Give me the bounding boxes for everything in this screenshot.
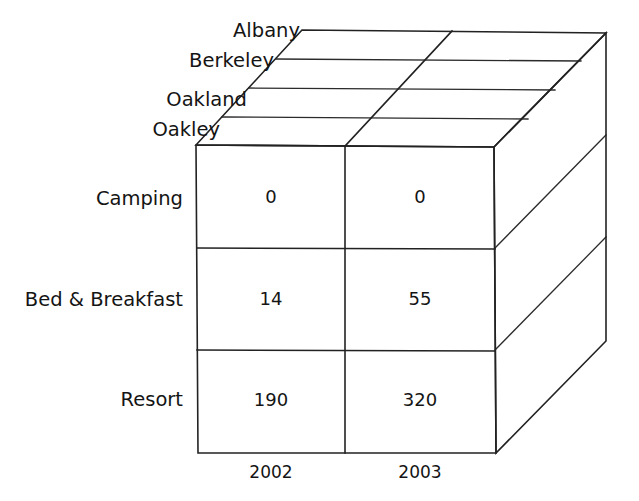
cell-bed-and-breakfast-2003: 55	[409, 288, 432, 309]
city-label-berkeley: Berkeley	[189, 49, 274, 72]
year-label-2002: 2002	[249, 462, 292, 482]
year-label-2003: 2003	[398, 462, 441, 482]
row-axis-labels: Camping Bed & Breakfast Resort	[25, 187, 184, 411]
cell-resort-2002: 190	[254, 389, 288, 410]
cell-bed-and-breakfast-2002: 14	[260, 288, 283, 309]
cube-diagram-svg: Albany Berkeley Oakland Oakley Camping B…	[0, 0, 639, 501]
cell-camping-2003: 0	[414, 186, 425, 207]
year-axis-labels: 2002 2003	[249, 462, 441, 482]
row-label-camping: Camping	[96, 187, 183, 210]
front-face-divider-bnb-resort	[197, 350, 495, 351]
cell-resort-2003: 320	[403, 389, 437, 410]
city-label-oakley: Oakley	[152, 118, 220, 141]
data-cube-figure: Albany Berkeley Oakland Oakley Camping B…	[0, 0, 639, 501]
cell-camping-2002: 0	[265, 186, 276, 207]
cube-front-face	[196, 145, 496, 453]
city-label-oakland: Oakland	[166, 88, 247, 111]
row-label-resort: Resort	[121, 388, 184, 411]
front-face-divider-camping-bnb	[197, 248, 495, 249]
city-label-albany: Albany	[233, 19, 300, 42]
row-label-bed-and-breakfast: Bed & Breakfast	[25, 288, 184, 311]
